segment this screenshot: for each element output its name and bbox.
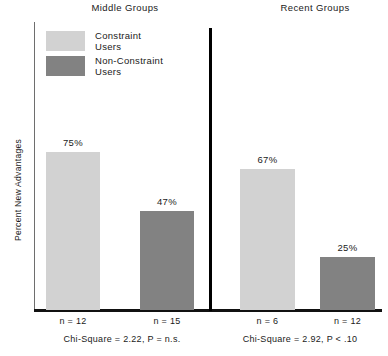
n-label-middle-constraint: n = 12 [46, 316, 100, 326]
bar-recent-constraint: 67% [240, 169, 295, 310]
chart-legend: Constraint Users Non-Constraint Users [46, 31, 163, 81]
legend-item-non-constraint-users: Non-Constraint Users [46, 56, 163, 77]
legend-swatch-non-constraint [46, 56, 85, 76]
panel-title-middle-groups: Middle Groups [60, 2, 190, 13]
n-label-recent-constraint: n = 6 [240, 316, 295, 326]
legend-label-non-constraint-line2: Users [95, 67, 163, 78]
legend-label-non-constraint: Non-Constraint Users [95, 56, 163, 77]
y-axis-label: Percent New Advantages [13, 120, 23, 260]
legend-label-constraint-line2: Users [95, 42, 141, 53]
panel-divider-line [209, 28, 212, 311]
stat-label-recent-groups: Chi-Square = 2.92, P < .10 [212, 334, 388, 344]
bar-middle-non-constraint: 47% [140, 211, 194, 310]
bar-value-recent-non-constraint: 25% [320, 242, 375, 253]
bar-value-middle-constraint: 75% [46, 137, 100, 148]
bar-middle-constraint: 75% [46, 152, 100, 310]
bar-recent-non-constraint: 25% [320, 257, 375, 310]
stat-label-middle-groups: Chi-Square = 2.22, P = n.s. [34, 334, 210, 344]
legend-item-constraint-users: Constraint Users [46, 31, 163, 52]
n-label-recent-non-constraint: n = 12 [320, 316, 375, 326]
legend-label-constraint-line1: Constraint [95, 31, 141, 42]
panel-title-recent-groups: Recent Groups [250, 2, 380, 13]
bar-value-recent-constraint: 67% [240, 154, 295, 165]
legend-label-constraint: Constraint Users [95, 31, 141, 52]
legend-swatch-constraint [46, 31, 85, 51]
bar-value-middle-non-constraint: 47% [140, 196, 194, 207]
n-label-middle-non-constraint: n = 15 [140, 316, 194, 326]
y-axis-line [34, 22, 35, 311]
legend-label-non-constraint-line1: Non-Constraint [95, 56, 163, 67]
